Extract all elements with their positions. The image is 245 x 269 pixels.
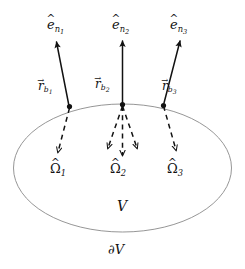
normal-label-3-index: 3 (183, 28, 187, 36)
normal-label-2: ^en2 (112, 18, 129, 35)
direction-label-2-base: Ω (110, 162, 121, 175)
normal-label-1-index: 1 (60, 28, 64, 36)
volume-label: V (117, 199, 127, 213)
direction-label-3-index: 3 (178, 168, 183, 178)
direction-label-1-base: Ω (50, 162, 61, 175)
normal-label-2-index: 2 (125, 28, 129, 36)
position-label-3-index: 3 (173, 88, 177, 95)
direction-label-2: ^Ω2 (110, 162, 126, 177)
figure-canvas: ^en1 ^en2 ^en3 →rb1 →rb2 →rb3 ^Ω1 ^Ω2 ^Ω… (0, 0, 245, 269)
boundary-label: ∂V (108, 243, 124, 256)
normal-arrow-1 (57, 42, 70, 106)
position-label-3: →rb3 (162, 80, 177, 95)
direction-label-2-index: 2 (121, 168, 126, 178)
direction-label-1: ^Ω1 (50, 162, 66, 177)
direction-label-1-index: 1 (61, 168, 66, 178)
position-label-1-index: 1 (49, 88, 53, 95)
boundary-point-1 (67, 104, 72, 109)
diagram-svg (0, 0, 245, 269)
direction-label-3: ^Ω3 (167, 162, 183, 177)
position-label-2-index: 2 (106, 86, 110, 93)
position-label-1: →rb1 (38, 80, 53, 95)
boundary-point-3 (161, 103, 166, 108)
normal-label-1: ^en1 (47, 18, 64, 35)
position-label-2: →rb2 (95, 78, 110, 93)
boundary-point-2 (120, 102, 125, 107)
direction-label-3-base: Ω (167, 162, 178, 175)
normal-label-3: ^en3 (170, 18, 187, 35)
